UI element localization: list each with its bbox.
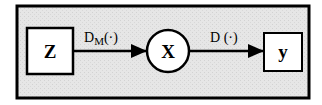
node-y-label: y	[278, 41, 288, 62]
diagram-canvas: Z DM(·) X D (·) y	[0, 0, 322, 105]
node-z: Z	[27, 28, 73, 74]
node-z-label: Z	[44, 41, 57, 62]
node-x: X	[147, 30, 189, 72]
edge-label-d: D (·)	[210, 30, 238, 46]
node-y: y	[264, 33, 302, 71]
node-x-label: X	[161, 41, 175, 62]
